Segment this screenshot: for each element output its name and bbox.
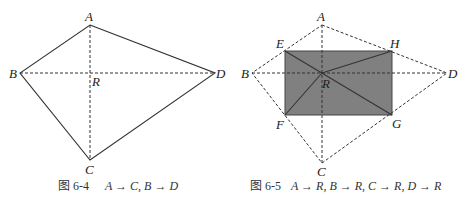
figure-6-4: A B C D R 图 6-4 A → C, B → D [9,9,226,193]
caption-formula: A → C, B → D [104,179,178,193]
label-b: B [241,66,249,81]
label-c: C [85,162,94,177]
label-f: F [275,117,285,132]
label-h: H [389,36,400,51]
label-a: A [84,9,93,24]
label-d: D [215,66,226,81]
label-r: R [321,76,330,91]
label-b: B [9,66,17,81]
caption-prefix: 图 6-4 [58,179,89,193]
caption-formula: A → R, B → R, C → R, D → R [290,179,442,193]
label-e: E [275,36,284,51]
label-a: A [316,9,325,24]
label-d: D [447,66,458,81]
label-r: R [91,74,100,89]
label-c: C [317,164,326,179]
figures-canvas: A B C D R 图 6-4 A → C, B → D A B C D E F… [0,0,467,197]
figure-6-5: A B C D E F G H R 图 6-5 A → R, B → R, C … [241,9,458,193]
kite-outline [20,25,215,160]
caption-prefix: 图 6-5 [250,179,281,193]
label-g: G [392,116,402,131]
